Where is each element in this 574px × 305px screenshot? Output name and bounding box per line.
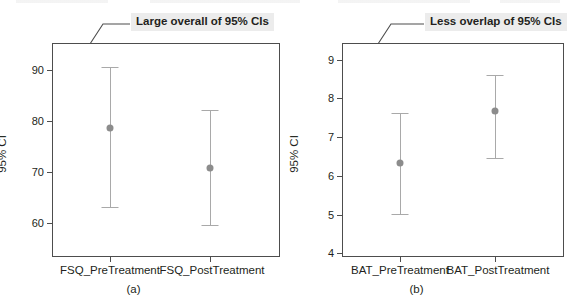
x-tick-mark — [495, 257, 496, 262]
y-tick-mark — [337, 253, 342, 254]
plot-area-a — [52, 43, 280, 257]
x-tick-mark — [110, 257, 111, 262]
mean-marker — [107, 125, 114, 132]
y-tick-label: 7 — [313, 131, 334, 143]
y-tick-label: 70 — [20, 166, 44, 178]
error-bar-cap-lower — [202, 225, 219, 226]
y-tick-label: 9 — [313, 54, 334, 66]
x-tick-label: BAT_PostTreatment — [447, 264, 550, 276]
x-tick-label: BAT_PreTreatment — [351, 264, 449, 276]
y-axis-title: 95% CI — [288, 135, 300, 173]
error-bar-line — [110, 67, 111, 207]
y-tick-mark — [337, 137, 342, 138]
y-axis-title: 95% CI — [0, 135, 8, 173]
error-bar-cap-lower — [487, 158, 504, 159]
panel-caption: (b) — [273, 283, 560, 295]
y-tick-label: 8 — [313, 92, 334, 104]
y-tick-mark — [337, 98, 342, 99]
callout-label-a: Large overall of 95% CIs — [131, 13, 274, 31]
panel-b: Less overlap of 95% CIs 9 8 7 6 5 4 95% … — [287, 0, 574, 305]
panel-a: Large overall of 95% CIs 90 80 70 60 95%… — [0, 0, 287, 305]
error-bar-cap-lower — [392, 214, 409, 215]
mean-marker — [397, 160, 404, 167]
plot-area-b — [342, 43, 564, 257]
x-tick-mark — [400, 257, 401, 262]
error-bar-cap-upper — [102, 67, 119, 68]
y-tick-label: 90 — [20, 64, 44, 76]
y-tick-mark — [337, 176, 342, 177]
mean-marker — [207, 165, 214, 172]
callout-label-b: Less overlap of 95% CIs — [425, 13, 567, 31]
y-tick-mark — [47, 172, 52, 173]
mean-marker — [492, 108, 499, 115]
error-bar-cap-upper — [392, 113, 409, 114]
error-bar-cap-upper — [202, 110, 219, 111]
x-tick-label: FSQ_PostTreatment — [159, 264, 264, 276]
y-tick-mark — [337, 215, 342, 216]
y-tick-mark — [47, 70, 52, 71]
panel-caption: (a) — [0, 283, 277, 295]
y-tick-mark — [337, 60, 342, 61]
y-tick-mark — [47, 121, 52, 122]
error-bar-cap-upper — [487, 75, 504, 76]
x-tick-mark — [210, 257, 211, 262]
figure-container: Large overall of 95% CIs 90 80 70 60 95%… — [0, 0, 574, 305]
x-tick-label: FSQ_PreTreatment — [60, 264, 160, 276]
y-tick-label: 60 — [20, 217, 44, 229]
y-tick-mark — [47, 223, 52, 224]
error-bar-cap-lower — [102, 207, 119, 208]
y-tick-label: 6 — [313, 170, 334, 182]
y-tick-label: 5 — [313, 209, 334, 221]
y-tick-label: 4 — [313, 247, 334, 259]
error-bar-line — [495, 75, 496, 158]
y-tick-label: 80 — [20, 115, 44, 127]
